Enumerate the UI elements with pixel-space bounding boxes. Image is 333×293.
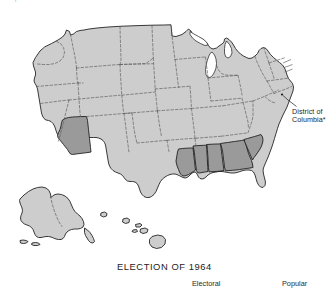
hawaii-molokai — [136, 224, 143, 228]
state-arizona — [58, 117, 92, 155]
legend-column-electoral: Electoral — [192, 280, 220, 289]
dc-marker — [281, 93, 283, 95]
alaska-inset — [20, 187, 95, 246]
contiguous-us-group — [33, 25, 297, 198]
hawaii-oahu — [123, 218, 130, 224]
us-map-svg: .land { fill:#cdcdcd; stroke:#1a1a1a; st… — [0, 0, 333, 293]
district-of-columbia-label: District of Columbia* — [292, 108, 326, 125]
contiguous-us-landmass — [33, 25, 294, 198]
hawaii-inset — [101, 212, 166, 249]
hawaii-lanai — [132, 230, 138, 233]
aleutian-islands-2 — [32, 243, 41, 246]
dc-label-line-2: Columbia* — [292, 116, 326, 124]
state-alaska — [20, 187, 85, 240]
hawaii-kauai — [101, 212, 108, 217]
hawaii-maui — [140, 228, 148, 234]
map-title: ELECTION OF 1964 — [117, 261, 212, 272]
aleutian-islands — [20, 240, 28, 244]
election-map-figure: map and election .land { fill:#cdcdcd; s… — [0, 0, 333, 293]
hawaii-big-island — [150, 235, 166, 249]
alaska-panhandle — [85, 228, 95, 243]
legend-column-popular: Popular — [282, 280, 307, 289]
